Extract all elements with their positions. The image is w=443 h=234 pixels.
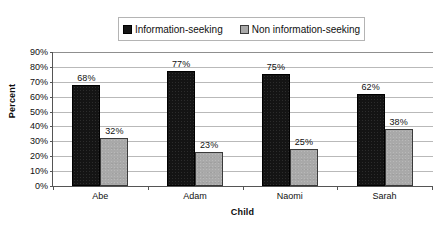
x-tick-mark: [53, 186, 54, 190]
x-axis-title: Child: [53, 207, 432, 217]
bar-group: 77%23%: [148, 52, 243, 186]
bar-value-label: 75%: [267, 63, 285, 72]
y-tick-label: 0%: [4, 182, 48, 191]
bar-pair: 77%23%: [148, 52, 243, 186]
bar-value-label: 23%: [200, 141, 218, 150]
bar: 77%: [167, 71, 195, 186]
bar-pair: 68%32%: [53, 52, 148, 186]
y-tick-label: 20%: [4, 152, 48, 161]
bar-value-label: 25%: [295, 138, 313, 147]
dark-square-icon: [123, 25, 132, 34]
y-tick-label: 80%: [4, 63, 48, 72]
bar-group: 62%38%: [337, 52, 432, 186]
y-tick-label: 90%: [4, 48, 48, 57]
legend-label-non-information-seeking: Non information-seeking: [252, 24, 360, 35]
x-tick-mark: [148, 186, 149, 190]
bar-value-label: 38%: [390, 118, 408, 127]
bar-pair: 62%38%: [337, 52, 432, 186]
legend-label-information-seeking: Information-seeking: [135, 24, 223, 35]
bar-chart: Information-seeking Non information-seek…: [0, 0, 443, 234]
x-tick-label: Abe: [53, 191, 148, 202]
x-tick-mark: [243, 186, 244, 190]
bar: 75%: [262, 74, 290, 186]
gray-square-icon: [240, 25, 249, 34]
bar-value-label: 77%: [172, 60, 190, 69]
bar: 38%: [385, 129, 413, 186]
bar-group: 68%32%: [53, 52, 148, 186]
bar: 62%: [357, 94, 385, 186]
bar-group: 75%25%: [243, 52, 338, 186]
chart-legend: Information-seeking Non information-seek…: [118, 17, 365, 41]
x-tick-label: Sarah: [337, 191, 432, 202]
y-tick-label: 10%: [4, 167, 48, 176]
x-tick-label: Naomi: [243, 191, 338, 202]
legend-entry-information-seeking: Information-seeking: [123, 24, 223, 35]
bar: 25%: [290, 149, 318, 186]
x-tick-label: Adam: [148, 191, 243, 202]
x-tick-mark: [337, 186, 338, 190]
bar: 68%: [72, 85, 100, 186]
legend-entry-non-information-seeking: Non information-seeking: [240, 24, 360, 35]
x-axis-labels: AbeAdamNaomiSarah: [53, 191, 432, 202]
x-axis-ticks: [53, 186, 432, 190]
y-axis-labels: 90% 80% 70% 60% 50% 40% 30% 20% 10% 0%: [0, 52, 48, 186]
bar-value-label: 32%: [105, 127, 123, 136]
y-tick-label: 70%: [4, 78, 48, 87]
bar-value-label: 62%: [362, 83, 380, 92]
bar: 23%: [195, 152, 223, 186]
y-tick-label: 30%: [4, 137, 48, 146]
y-tick-label: 40%: [4, 122, 48, 131]
bar: 32%: [100, 138, 128, 186]
x-tick-mark: [432, 186, 433, 190]
bar-groups: 68%32%77%23%75%25%62%38%: [53, 52, 432, 186]
y-tick-label: 50%: [4, 108, 48, 117]
y-tick-label: 60%: [4, 93, 48, 102]
bar-value-label: 68%: [77, 74, 95, 83]
bar-pair: 75%25%: [243, 52, 338, 186]
